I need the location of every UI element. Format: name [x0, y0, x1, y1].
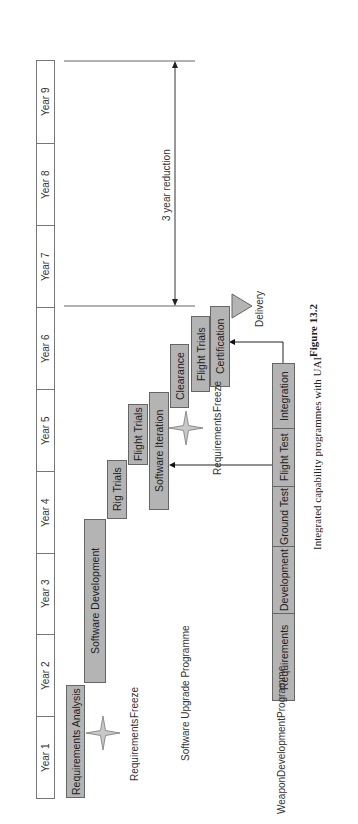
phase-label: Flight Test: [278, 434, 290, 482]
figure-caption-title: Integrated capability programmes with UA…: [311, 357, 323, 550]
weapon-development-programme-label: WeaponDevelopmentProgramme: [263, 708, 301, 772]
task-flight-trials-2: Flight Trials: [191, 316, 210, 392]
task-label: Flight Trials: [132, 408, 144, 462]
task-label: Software Iteration: [153, 410, 165, 492]
phase-development: Development: [272, 546, 295, 614]
task-label: Certification: [214, 319, 226, 374]
weapon-label-line2: Development: [276, 718, 288, 777]
star-milestone-icon: [86, 716, 120, 750]
weapon-label-line3: Programme: [276, 666, 288, 718]
task-label: Flight Trials: [195, 327, 207, 381]
task-certification: Certification: [210, 306, 230, 387]
task-flight-trials-1: Flight Trials: [128, 404, 148, 465]
task-requirements-analysis: Requirements Analysis: [66, 685, 85, 798]
star-milestone-icon: [169, 411, 203, 445]
software-upgrade-programme-label: Software Upgrade Programme: [179, 610, 193, 776]
reduction-text: 3 year reduction: [161, 149, 173, 221]
weapon-label-line1: Weapon: [276, 777, 288, 814]
task-label: Requirements Analysis: [70, 688, 82, 795]
phase-label: Ground Test: [278, 488, 290, 545]
figure-caption: Integrated capability programmes with UA…: [309, 286, 325, 568]
milestone-label-line2: Freeze: [129, 687, 141, 718]
connector-integration-to-certification: [233, 342, 283, 363]
arrowhead-left-icon: [169, 462, 175, 468]
phase-ground-test: Ground Test: [272, 486, 295, 547]
phase-flight-test: Flight Test: [272, 428, 295, 487]
software-upgrade-label-text: Software Upgrade Programme: [180, 625, 192, 761]
arrowhead-up-icon: [172, 61, 178, 68]
milestone-label-line1: Requirements: [129, 718, 141, 780]
delivery-triangle-icon: [232, 294, 252, 318]
milestone-label-line1: Requirements: [212, 412, 224, 474]
milestone-label-line2: Freeze: [212, 381, 224, 412]
delivery-label: Delivery: [254, 291, 266, 327]
task-clearance: Clearance: [170, 344, 189, 408]
figure-caption-number: Figure 13.2: [307, 304, 319, 357]
milestone-delivery: Delivery: [253, 292, 267, 326]
task-label: Clearance: [174, 352, 186, 400]
task-label: Software Development: [89, 548, 101, 654]
arrowhead-down-icon: [172, 299, 178, 306]
reduction-label: 3 year reduction: [160, 140, 174, 230]
task-software-development: Software Development: [84, 519, 106, 683]
phase-label: Integration: [278, 371, 290, 421]
task-rig-trials: Rig Trials: [107, 460, 127, 519]
milestone-requirements-freeze-2: RequirementsFreeze: [205, 396, 231, 460]
phase-integration: Integration: [272, 363, 295, 429]
task-label: Rig Trials: [111, 468, 123, 512]
task-software-iteration: Software Iteration: [149, 392, 169, 510]
milestone-requirements-freeze-1: RequirementsFreeze: [122, 700, 148, 768]
phase-label: Development: [278, 549, 290, 611]
